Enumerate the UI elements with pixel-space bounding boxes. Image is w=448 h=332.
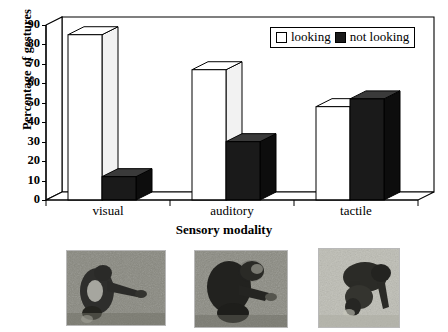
legend-label-looking: looking (291, 29, 331, 45)
photo-strip (0, 244, 448, 332)
bar-tactile-not-looking (350, 91, 400, 200)
chart-legend: looking not looking (270, 27, 415, 48)
figure-panel: Percentage of gestures 01020304050607080… (0, 0, 448, 332)
photo-visual (66, 250, 166, 326)
bar-visual-not-looking (102, 169, 152, 200)
x-category-label-auditory: auditory (182, 203, 282, 219)
photo-auditory (194, 250, 288, 328)
legend-swatch-white-square (276, 32, 287, 43)
x-category-label-visual: visual (58, 203, 158, 219)
bar-auditory-not-looking (226, 134, 276, 200)
legend-entry-looking: looking (276, 29, 331, 45)
legend-entry-not-looking: not looking (335, 29, 410, 45)
legend-swatch-black-square (335, 32, 346, 43)
x-axis-title: Sensory modality (0, 222, 448, 238)
legend-label-not-looking: not looking (350, 29, 410, 45)
x-category-label-tactile: tactile (306, 203, 406, 219)
photo-tactile (318, 248, 400, 328)
